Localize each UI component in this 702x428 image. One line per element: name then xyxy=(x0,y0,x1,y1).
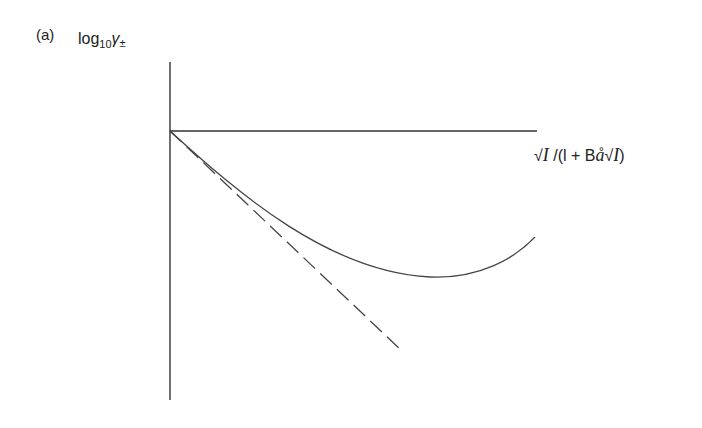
panel-label: (a) xyxy=(36,26,54,43)
y-axis-label: log10γ± xyxy=(78,30,126,50)
x-axis-label: √I /(l + Bå√I) xyxy=(534,145,625,166)
experimental-curve xyxy=(170,131,535,277)
figure-canvas xyxy=(0,0,702,428)
limiting-law-dashed-line xyxy=(170,131,402,351)
